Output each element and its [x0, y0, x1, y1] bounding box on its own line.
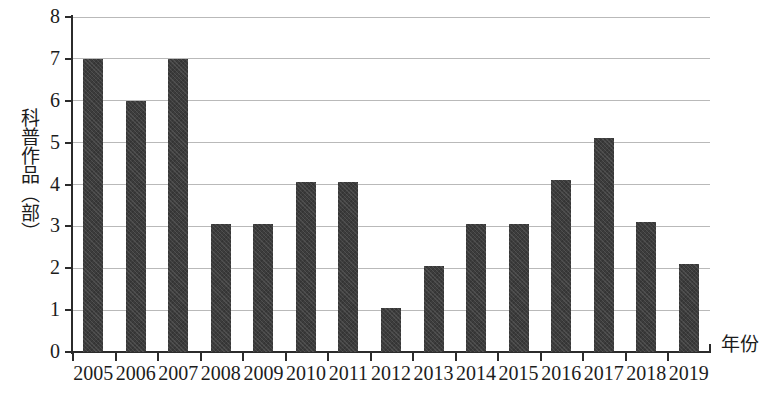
- x-tick-label-2018: 2018: [625, 362, 668, 384]
- x-axis-end-cap: [709, 344, 711, 353]
- bar-2015: [509, 224, 529, 352]
- x-tick-mark: [497, 353, 499, 361]
- y-tick-label: 7: [34, 48, 60, 68]
- x-tick-mark: [327, 353, 329, 361]
- bar-2019: [679, 264, 699, 352]
- y-tick-label: 3: [34, 215, 60, 235]
- y-tick-mark: [65, 309, 73, 311]
- x-tick-label-2016: 2016: [540, 362, 583, 384]
- y-tick-mark: [65, 58, 73, 60]
- bar-2006: [126, 101, 146, 352]
- x-tick-mark: [157, 353, 159, 361]
- bar-2017: [594, 138, 614, 352]
- x-tick-label-2007: 2007: [157, 362, 200, 384]
- x-tick-label-2006: 2006: [115, 362, 158, 384]
- x-tick-label-2009: 2009: [242, 362, 285, 384]
- y-tick-mark: [65, 16, 73, 18]
- x-tick-label-2010: 2010: [285, 362, 328, 384]
- bar-2012: [381, 308, 401, 352]
- x-tick-mark: [455, 353, 457, 361]
- y-tick-mark: [65, 142, 73, 144]
- y-tick-label: 0: [34, 341, 60, 361]
- y-tick-label: 8: [34, 6, 60, 26]
- y-tick-label-wrap: 5: [12, 132, 60, 152]
- y-tick-mark: [65, 225, 73, 227]
- x-tick-mark: [540, 353, 542, 361]
- y-tick-label: 5: [34, 132, 60, 152]
- x-tick-label-2014: 2014: [455, 362, 498, 384]
- y-tick-label: 4: [34, 174, 60, 194]
- y-tick-mark: [65, 184, 73, 186]
- bar-2010: [296, 182, 316, 352]
- x-tick-mark: [370, 353, 372, 361]
- y-tick-label-wrap: 3: [12, 215, 60, 235]
- bar-2016: [551, 180, 571, 352]
- x-tick-mark: [72, 353, 74, 361]
- bar-2008: [211, 224, 231, 352]
- x-tick-mark: [242, 353, 244, 361]
- x-tick-mark: [667, 353, 669, 361]
- x-tick-label-2012: 2012: [370, 362, 413, 384]
- bar-2007: [168, 59, 188, 352]
- x-tick-label-2011: 2011: [327, 362, 370, 384]
- bar-chart: 科普作品（部） 012345678 2005200620072008200920…: [0, 0, 765, 415]
- bar-2009: [253, 224, 273, 352]
- x-tick-mark: [115, 353, 117, 361]
- gridline: [72, 17, 710, 18]
- x-tick-mark: [625, 353, 627, 361]
- y-tick-label-wrap: 8: [12, 6, 60, 26]
- bar-2013: [424, 266, 444, 352]
- y-tick-label-wrap: 6: [12, 90, 60, 110]
- x-tick-label-2008: 2008: [200, 362, 243, 384]
- y-tick-label: 1: [34, 299, 60, 319]
- x-axis-title: 年份: [721, 334, 759, 356]
- x-tick-mark: [412, 353, 414, 361]
- bar-2018: [636, 222, 656, 352]
- y-tick-label: 2: [34, 257, 60, 277]
- y-tick-mark: [65, 100, 73, 102]
- x-tick-mark: [582, 353, 584, 361]
- y-tick-label-wrap: 7: [12, 48, 60, 68]
- y-tick-label: 6: [34, 90, 60, 110]
- x-tick-label-2015: 2015: [497, 362, 540, 384]
- x-tick-label-2019: 2019: [667, 362, 710, 384]
- x-tick-label-2017: 2017: [582, 362, 625, 384]
- bottom-artifact-text: [300, 400, 750, 412]
- y-tick-mark: [65, 267, 73, 269]
- bar-2005: [83, 59, 103, 352]
- y-tick-label-wrap: 2: [12, 257, 60, 277]
- x-tick-label-2005: 2005: [72, 362, 115, 384]
- x-tick-label-2013: 2013: [412, 362, 455, 384]
- y-tick-label-wrap: 0: [12, 341, 60, 361]
- y-tick-label-wrap: 4: [12, 174, 60, 194]
- y-tick-label-wrap: 1: [12, 299, 60, 319]
- x-tick-mark: [285, 353, 287, 361]
- x-tick-mark: [200, 353, 202, 361]
- bar-2011: [338, 182, 358, 352]
- bar-2014: [466, 224, 486, 352]
